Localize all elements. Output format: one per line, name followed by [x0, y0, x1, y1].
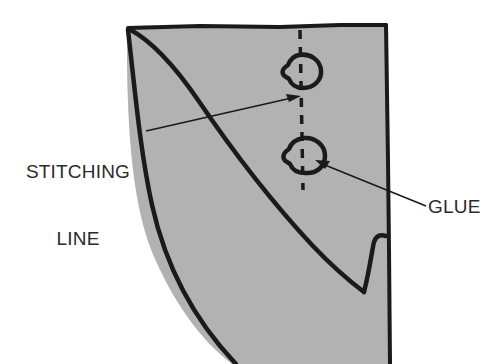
glue-label: GLUE: [428, 196, 481, 218]
stitching-line-label-row1: STITCHING: [14, 161, 142, 183]
pattern-piece-figure: STITCHING LINE GLUE: [0, 0, 484, 364]
stitching-line-label-row2: LINE: [14, 228, 142, 250]
fabric-panel-fill: [127, 25, 390, 364]
stitching-line-label: STITCHING LINE: [14, 116, 142, 295]
